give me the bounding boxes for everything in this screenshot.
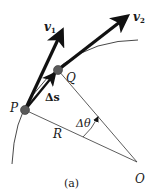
label-Q: Q xyxy=(66,72,76,84)
label-v1: v1 xyxy=(44,21,56,34)
label-delta-s: Δs xyxy=(45,92,60,103)
label-O: O xyxy=(135,173,145,185)
point-P xyxy=(21,106,30,115)
label-R: R xyxy=(53,128,62,140)
diagram-graphics xyxy=(0,0,158,195)
label-P: P xyxy=(10,102,18,114)
figure-caption: (a) xyxy=(64,178,79,189)
label-delta-theta: Δθ xyxy=(76,118,91,129)
point-Q xyxy=(54,66,63,75)
label-v2: v2 xyxy=(133,11,145,24)
circular-motion-diagram: v1 v2 Q Δs P R Δθ O (a) xyxy=(0,0,158,195)
vector-v2 xyxy=(58,18,125,70)
